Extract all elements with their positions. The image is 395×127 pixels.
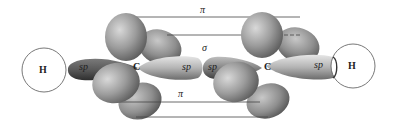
sp-label-c2-left: sp xyxy=(208,62,217,72)
c1-p-lobe-top xyxy=(105,13,147,61)
orbital-graphic xyxy=(0,0,395,127)
pi-bond-bottom-label: π xyxy=(178,89,183,99)
sp-label-c1-right: sp xyxy=(182,62,191,72)
sp-orbital-c2-right xyxy=(266,55,338,80)
atom-c2-label: C xyxy=(264,62,271,72)
sigma-bond-label: σ xyxy=(202,43,207,53)
atom-c1-label: C xyxy=(133,62,140,72)
pi-bond-top-label: π xyxy=(200,5,205,15)
atom-h-left-label: H xyxy=(39,65,47,75)
sp-label-left-outer: sp xyxy=(79,62,88,72)
sp-orbital-c1-right xyxy=(138,56,203,80)
sp-label-right-outer: sp xyxy=(314,60,323,70)
c2-p-lobe-top xyxy=(241,12,283,58)
acetylene-orbital-diagram: H C C H sp sp sp sp π σ π xyxy=(0,0,395,127)
atom-h-right-label: H xyxy=(348,61,356,71)
